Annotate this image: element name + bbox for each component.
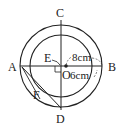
leader-8cm (92, 58, 102, 65)
label-d: D (56, 112, 65, 126)
geometry-diagram: C A B D E F O 8cm 6cm (0, 0, 132, 133)
label-a: A (8, 60, 17, 74)
leader-6cm (94, 70, 97, 77)
label-f: F (33, 88, 40, 102)
measure-6cm: 6cm (70, 69, 89, 81)
measure-8cm: 8cm (72, 51, 91, 63)
label-e: E (44, 51, 51, 65)
label-c: C (56, 6, 64, 20)
right-angle-marker (55, 66, 61, 72)
e-pointer (52, 60, 60, 65)
label-b: B (108, 60, 116, 74)
